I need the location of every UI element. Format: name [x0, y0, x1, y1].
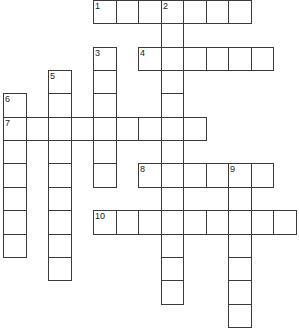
grid-cell[interactable] — [116, 117, 139, 141]
grid-cell[interactable] — [3, 140, 27, 164]
grid-cell[interactable] — [183, 117, 207, 141]
grid-cell[interactable] — [228, 257, 252, 281]
grid-cell[interactable] — [161, 93, 184, 118]
grid-cell[interactable] — [161, 187, 184, 211]
grid-cell[interactable] — [161, 163, 184, 188]
grid-cell[interactable] — [93, 117, 117, 141]
grid-cell[interactable]: 7 — [3, 117, 27, 141]
clue-number: 3 — [95, 48, 100, 58]
grid-cell[interactable] — [183, 210, 207, 235]
grid-cell[interactable] — [161, 210, 184, 235]
grid-cell[interactable] — [48, 163, 72, 188]
grid-cell[interactable] — [206, 210, 229, 235]
grid-cell[interactable] — [3, 210, 27, 235]
grid-cell[interactable] — [48, 234, 72, 258]
grid-cell[interactable] — [138, 210, 162, 235]
grid-cell[interactable] — [183, 163, 207, 188]
grid-cell[interactable] — [48, 257, 72, 281]
crossword-grid: 12345678910 — [0, 0, 299, 334]
grid-cell[interactable] — [26, 117, 49, 141]
grid-cell[interactable] — [161, 140, 184, 164]
grid-cell[interactable]: 3 — [93, 47, 117, 71]
grid-cell[interactable] — [93, 140, 117, 164]
grid-cell[interactable] — [228, 210, 252, 235]
grid-cell[interactable] — [48, 93, 72, 118]
grid-cell[interactable] — [206, 163, 229, 188]
grid-cell[interactable]: 2 — [161, 0, 184, 24]
grid-cell[interactable] — [228, 47, 252, 71]
grid-cell[interactable]: 6 — [3, 93, 27, 118]
grid-cell[interactable] — [161, 234, 184, 258]
grid-cell[interactable]: 4 — [138, 47, 162, 71]
grid-cell[interactable] — [48, 117, 72, 141]
grid-cell[interactable] — [48, 187, 72, 211]
clue-number: 8 — [140, 164, 145, 174]
clue-number: 6 — [5, 94, 10, 104]
grid-cell[interactable] — [138, 0, 162, 24]
grid-cell[interactable] — [3, 163, 27, 188]
grid-cell[interactable] — [228, 187, 252, 211]
clue-number: 7 — [5, 118, 10, 128]
grid-cell[interactable] — [116, 210, 139, 235]
grid-cell[interactable] — [206, 47, 229, 71]
clue-number: 4 — [140, 48, 145, 58]
grid-cell[interactable] — [93, 70, 117, 94]
grid-cell[interactable]: 9 — [228, 163, 252, 188]
grid-cell[interactable] — [3, 234, 27, 258]
grid-cell[interactable] — [48, 210, 72, 235]
grid-cell[interactable] — [251, 210, 274, 235]
grid-cell[interactable] — [161, 47, 184, 71]
clue-number: 10 — [95, 211, 105, 221]
grid-cell[interactable] — [71, 117, 94, 141]
grid-cell[interactable] — [228, 280, 252, 305]
grid-cell[interactable] — [3, 187, 27, 211]
grid-cell[interactable] — [93, 163, 117, 188]
grid-cell[interactable] — [138, 117, 162, 141]
grid-cell[interactable] — [228, 234, 252, 258]
grid-cell[interactable]: 8 — [138, 163, 162, 188]
grid-cell[interactable]: 1 — [93, 0, 117, 24]
grid-cell[interactable] — [161, 257, 184, 281]
grid-cell[interactable] — [228, 304, 252, 328]
grid-cell[interactable] — [251, 47, 274, 71]
clue-number: 9 — [230, 164, 235, 174]
grid-cell[interactable] — [251, 163, 274, 188]
grid-cell[interactable] — [161, 117, 184, 141]
grid-cell[interactable] — [161, 280, 184, 305]
grid-cell[interactable] — [228, 0, 252, 24]
grid-cell[interactable]: 5 — [48, 70, 72, 94]
grid-cell[interactable] — [116, 0, 139, 24]
clue-number: 5 — [50, 71, 55, 81]
grid-cell[interactable] — [161, 70, 184, 94]
clue-number: 1 — [95, 1, 100, 11]
grid-cell[interactable] — [183, 47, 207, 71]
clue-number: 2 — [163, 1, 168, 11]
grid-cell[interactable] — [273, 210, 297, 235]
grid-cell[interactable] — [93, 93, 117, 118]
grid-cell[interactable] — [161, 23, 184, 48]
grid-cell[interactable] — [48, 140, 72, 164]
grid-cell[interactable]: 10 — [93, 210, 117, 235]
grid-cell[interactable] — [206, 0, 229, 24]
grid-cell[interactable] — [183, 0, 207, 24]
